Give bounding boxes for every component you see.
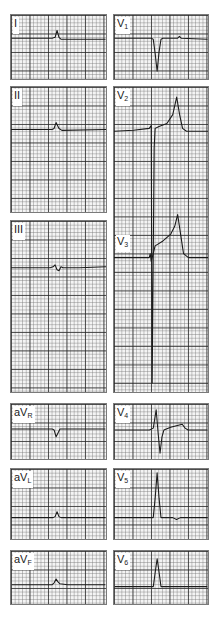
lead-III-trace <box>11 221 106 392</box>
lead-aVL-trace <box>11 469 106 539</box>
lead-V3-trace <box>114 87 208 392</box>
lead-V4-panel: V4 <box>113 403 209 460</box>
lead-I-panel: I <box>10 14 107 80</box>
lead-V6-panel: V6 <box>113 550 209 605</box>
lead-V5-trace <box>114 469 208 539</box>
lead-aVL-panel: aVL <box>10 468 107 540</box>
lead-V6-trace <box>114 551 208 604</box>
lead-II-panel: II <box>10 86 107 213</box>
lead-V5-panel: V5 <box>113 468 209 540</box>
lead-V1-panel: V1 <box>113 14 209 80</box>
lead-V2-V3-panel: V2 V3 <box>113 86 209 393</box>
lead-V4-trace <box>114 404 208 459</box>
lead-aVF-panel: aVF <box>10 550 107 605</box>
lead-V1-trace <box>114 15 208 79</box>
lead-II-trace <box>11 87 106 212</box>
lead-I-trace <box>11 15 106 79</box>
lead-III-panel: III <box>10 220 107 393</box>
lead-aVR-trace <box>11 404 106 459</box>
lead-aVR-panel: aVR <box>10 403 107 460</box>
lead-aVF-trace <box>11 551 106 604</box>
